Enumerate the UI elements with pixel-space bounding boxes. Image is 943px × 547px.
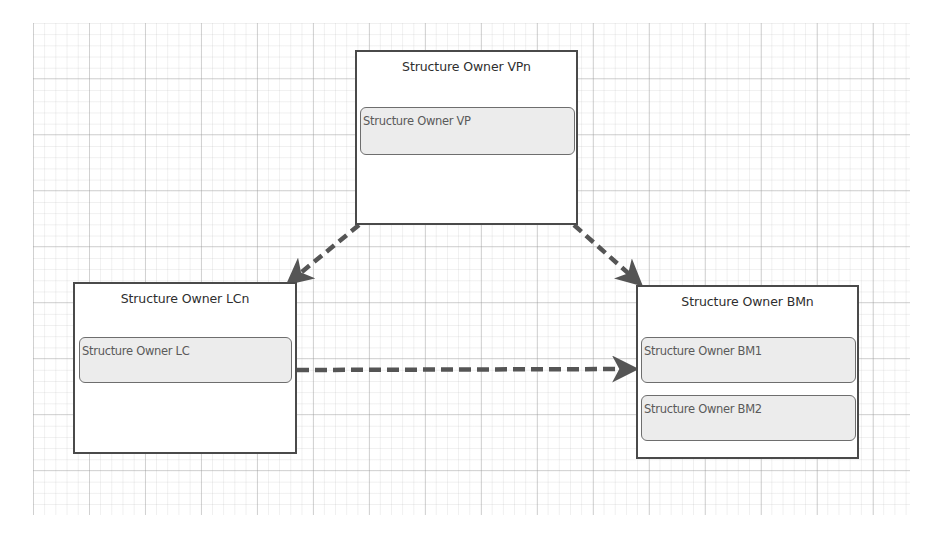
item-label: Structure Owner VP [363,114,471,128]
item-label: Structure Owner LC [82,344,189,358]
container-title: Structure Owner BMn [638,294,857,309]
container-structure-owner-bmn[interactable]: Structure Owner BMn Structure Owner BM1 … [636,285,859,459]
container-title: Structure Owner VPn [357,59,576,74]
container-title: Structure Owner LCn [75,291,295,306]
container-structure-owner-lcn[interactable]: Structure Owner LCn Structure Owner LC [73,282,297,454]
item-structure-owner-bm2[interactable]: Structure Owner BM2 [641,395,856,441]
item-structure-owner-lc[interactable]: Structure Owner LC [79,337,292,383]
item-structure-owner-bm1[interactable]: Structure Owner BM1 [641,337,856,383]
item-label: Structure Owner BM1 [644,344,762,358]
item-label: Structure Owner BM2 [644,402,762,416]
container-structure-owner-vpn[interactable]: Structure Owner VPn Structure Owner VP [355,50,578,225]
item-structure-owner-vp[interactable]: Structure Owner VP [360,107,575,155]
